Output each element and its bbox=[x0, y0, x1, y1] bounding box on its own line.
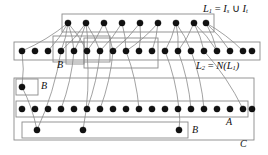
graph-node-A bbox=[162, 106, 168, 112]
graph-edge bbox=[100, 23, 122, 51]
graph-edge bbox=[87, 23, 104, 51]
graph-edge bbox=[48, 23, 68, 51]
graph-node-A bbox=[71, 106, 77, 112]
label-l1: L1 = Is ∪ It bbox=[203, 4, 248, 15]
graph-node-A bbox=[240, 106, 246, 112]
graph-edge bbox=[86, 23, 88, 51]
graph-node-A bbox=[45, 106, 51, 112]
graph-node-B-bottom bbox=[80, 127, 86, 133]
graph-edge bbox=[194, 23, 204, 51]
edge-layer bbox=[22, 23, 243, 130]
group-box-sub-box-3 bbox=[84, 38, 158, 68]
graph-node-L1 bbox=[119, 20, 125, 26]
graph-node-L1 bbox=[203, 20, 209, 26]
graph-node-L2 bbox=[19, 48, 25, 54]
graph-node-L2 bbox=[110, 48, 116, 54]
graph-edge bbox=[206, 23, 217, 51]
graph-node-A bbox=[188, 106, 194, 112]
graph-node-L1 bbox=[101, 20, 107, 26]
graph-node-A bbox=[136, 106, 142, 112]
graph-node-A bbox=[214, 106, 220, 112]
graph-node-L1 bbox=[83, 20, 89, 26]
graph-node-L2 bbox=[240, 48, 246, 54]
graph-node-L2 bbox=[32, 48, 38, 54]
graph-node-L2 bbox=[45, 48, 51, 54]
graph-edge bbox=[206, 23, 243, 51]
graph-node-L1 bbox=[155, 20, 161, 26]
group-box-Bbottom-box bbox=[22, 122, 188, 138]
graph-node-L2 bbox=[188, 48, 194, 54]
graph-edge bbox=[22, 51, 23, 87]
graph-node-L1 bbox=[191, 20, 197, 26]
graph-node-L2 bbox=[175, 48, 181, 54]
graph-edge bbox=[68, 23, 74, 51]
graph-node-A bbox=[58, 106, 64, 112]
graph-node-A bbox=[201, 106, 207, 112]
graph-edge bbox=[122, 23, 126, 51]
box-layer bbox=[14, 14, 260, 140]
graph-node-L2 bbox=[123, 48, 129, 54]
graph-node-L1 bbox=[173, 20, 179, 26]
graph-node-L1 bbox=[137, 20, 143, 26]
graph-node-L2 bbox=[71, 48, 77, 54]
graph-node-L2 bbox=[249, 48, 255, 54]
graph-node-B-bottom bbox=[34, 127, 40, 133]
graph-node-A bbox=[227, 106, 233, 112]
graph-edge bbox=[22, 23, 68, 51]
graph-edge bbox=[165, 23, 176, 51]
graph-edge bbox=[178, 23, 194, 51]
graph-node-B-left bbox=[19, 84, 25, 90]
graph-edge bbox=[113, 23, 140, 51]
graph-node-L2 bbox=[162, 48, 168, 54]
label-c: C bbox=[240, 139, 247, 149]
graph-edge bbox=[176, 23, 178, 51]
graph-node-A bbox=[123, 106, 129, 112]
label-a: A bbox=[226, 117, 232, 127]
graph-node-L2 bbox=[227, 48, 233, 54]
label-b-bottom: B bbox=[192, 125, 198, 135]
graph-node-A bbox=[249, 106, 255, 112]
graph-node-A bbox=[32, 106, 38, 112]
graph-node-L2 bbox=[214, 48, 220, 54]
graph-node-L2 bbox=[97, 48, 103, 54]
label-b-row2: B bbox=[57, 60, 63, 70]
label-b-left: B bbox=[41, 81, 47, 91]
graph-node-A bbox=[19, 106, 25, 112]
graph-node-L2 bbox=[201, 48, 207, 54]
graph-node-A bbox=[97, 106, 103, 112]
label-l2: L2 = N(L1) bbox=[196, 61, 239, 72]
graph-node-L2 bbox=[136, 48, 142, 54]
diagram-svg bbox=[0, 0, 268, 155]
graph-node-A bbox=[84, 106, 90, 112]
graph-node-B-bottom bbox=[176, 127, 182, 133]
graph-node-L2 bbox=[149, 48, 155, 54]
graph-node-L2 bbox=[58, 48, 64, 54]
graph-node-A bbox=[110, 106, 116, 112]
graph-node-L2 bbox=[84, 48, 90, 54]
graph-edge bbox=[206, 23, 230, 51]
graph-edge bbox=[152, 23, 158, 51]
figure-canvas: L1 = Is ∪ It L2 = N(L1) B B B A C bbox=[0, 0, 268, 155]
graph-edge bbox=[139, 23, 141, 51]
graph-node-A bbox=[175, 106, 181, 112]
graph-node-A bbox=[149, 106, 155, 112]
graph-edge bbox=[86, 23, 100, 51]
graph-edge bbox=[104, 23, 113, 51]
graph-node-L1 bbox=[65, 20, 71, 26]
